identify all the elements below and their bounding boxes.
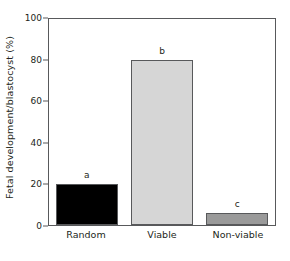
y-tick-label: 100 bbox=[25, 13, 42, 23]
x-category-label: Random bbox=[48, 229, 124, 240]
bar: b bbox=[131, 60, 193, 225]
bar: c bbox=[206, 213, 268, 225]
bar: a bbox=[56, 184, 118, 225]
plot-area: abc bbox=[48, 18, 276, 226]
bar-series: abc bbox=[49, 19, 275, 225]
x-category-label: Viable bbox=[124, 229, 200, 240]
y-tick-label: 0 bbox=[36, 221, 42, 231]
y-axis-tick-labels: 020406080100 bbox=[18, 18, 42, 226]
bar-annotation-letter: b bbox=[132, 47, 192, 56]
bar-slot: a bbox=[49, 19, 124, 225]
y-axis-title-container: Fetal development/blastocyst (%) bbox=[0, 0, 20, 235]
bar-annotation-letter: c bbox=[207, 200, 267, 209]
bar-annotation-letter: a bbox=[57, 171, 117, 180]
x-axis-category-labels: RandomViableNon-viable bbox=[48, 229, 276, 240]
bar-slot: b bbox=[124, 19, 199, 225]
y-tick-label: 60 bbox=[31, 96, 42, 106]
y-tick-label: 40 bbox=[31, 138, 42, 148]
x-category-label: Non-viable bbox=[200, 229, 276, 240]
y-axis-title: Fetal development/blastocyst (%) bbox=[5, 36, 16, 199]
bar-slot: c bbox=[200, 19, 275, 225]
y-tick-label: 80 bbox=[31, 55, 42, 65]
y-tick-label: 20 bbox=[31, 179, 42, 189]
bar-chart-figure: Fetal development/blastocyst (%) 0204060… bbox=[0, 0, 290, 261]
